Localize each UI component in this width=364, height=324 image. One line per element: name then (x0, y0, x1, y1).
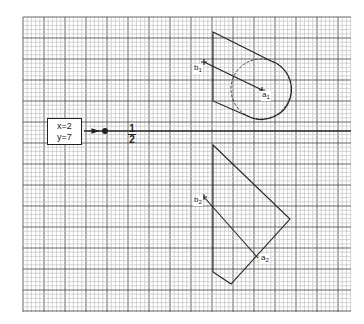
drawing-canvas (0, 0, 364, 324)
axis-fraction-label: 1 2 (128, 124, 136, 145)
fraction-denominator: 2 (128, 135, 136, 145)
coord-x: x=2 (48, 121, 81, 132)
label-b2: b2 (193, 196, 203, 206)
axis-point-icon (103, 129, 108, 134)
grid-paper (23, 17, 351, 312)
label-a2: a2 (260, 254, 270, 264)
coord-y: y=7 (48, 132, 81, 143)
label-b1: b1 (193, 64, 203, 74)
label-a1: a1 (261, 91, 271, 101)
coordinate-box: x=2 y=7 (47, 118, 82, 145)
axis-arrow-icon (92, 129, 98, 133)
